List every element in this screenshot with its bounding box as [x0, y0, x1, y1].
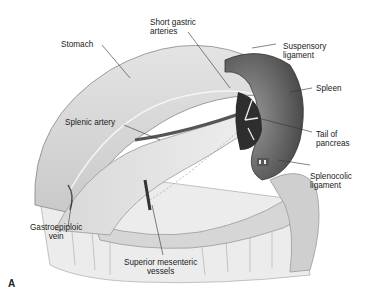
label-short-gastric-arteries: Short gastric arteries — [150, 18, 196, 36]
label-splenic-artery: Splenic artery — [65, 118, 115, 127]
label-suspensory-ligament: Suspensory ligament — [283, 42, 326, 60]
label-splenocolic-ligament: Splenocolic ligament — [310, 172, 352, 190]
label-tail-of-pancreas: Tail of pancreas — [316, 130, 350, 148]
label-stomach: Stomach — [61, 40, 93, 49]
panel-label: A — [8, 278, 15, 289]
label-superior-mesenteric-vessels: Superior mesenteric vessels — [124, 258, 197, 276]
label-gastroepiploic-vein: Gastroepiploic vein — [30, 223, 82, 241]
label-spleen: Spleen — [316, 84, 342, 93]
